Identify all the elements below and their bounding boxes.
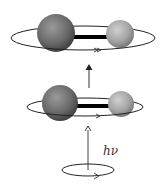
ground-state-molecule [27,85,143,121]
excited-state-molecule [11,14,155,52]
arrow-up-icon [86,64,93,70]
bond [70,35,110,39]
transition-arrow [86,64,93,88]
rotation-ring-front [11,38,155,50]
large-atom [37,14,75,52]
bond [74,104,110,108]
rotation-diagram: hν [0,0,164,192]
small-atom [106,20,134,48]
photon-label: hν [103,144,118,158]
photon-arrow: hν [62,126,118,179]
